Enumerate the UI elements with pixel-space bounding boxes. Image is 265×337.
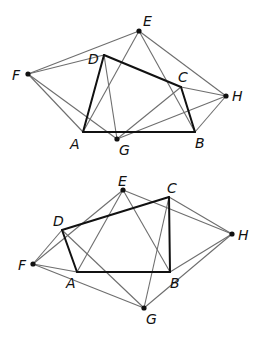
segment-hb <box>195 96 226 132</box>
point-label-c: C <box>178 69 188 85</box>
point-f-dot <box>25 71 30 76</box>
point-label-h: H <box>238 227 249 243</box>
segment-cg <box>144 197 169 308</box>
point-g-dot <box>141 305 146 310</box>
point-label-e: E <box>118 173 127 189</box>
point-label-b: B <box>170 275 180 291</box>
point-label-b: B <box>195 135 205 151</box>
point-f-dot <box>30 261 35 266</box>
segment-ea <box>77 190 123 272</box>
point-label-a: A <box>69 136 80 152</box>
segment-ea <box>83 31 139 132</box>
bottom-figure: ECDHFABG <box>18 173 249 327</box>
point-label-a: A <box>65 275 76 291</box>
segment-fe <box>33 190 123 264</box>
top-figure: EDFCHAGB <box>12 13 243 158</box>
point-h-dot <box>229 231 234 236</box>
segment-fg <box>33 264 144 308</box>
point-label-d: D <box>88 51 99 67</box>
segment-ch <box>169 197 232 234</box>
segment-hb <box>170 234 232 272</box>
quadrilateral-side-cd <box>62 197 169 230</box>
point-label-h: H <box>232 88 243 104</box>
point-label-f: F <box>18 257 27 273</box>
point-label-c: C <box>167 180 177 196</box>
geometry-diagram: EDFCHAGB ECDHFABG <box>0 0 265 337</box>
segment-eh <box>123 190 232 234</box>
point-label-d: D <box>53 213 64 229</box>
point-label-f: F <box>12 67 21 83</box>
quadrilateral-side-bc <box>169 197 170 272</box>
segment-fd <box>33 230 62 264</box>
point-label-g: G <box>146 311 157 327</box>
segment-dg <box>62 230 144 308</box>
point-label-g: G <box>119 142 130 158</box>
segment-eb <box>123 190 170 272</box>
quadrilateral-side-da <box>62 230 77 272</box>
point-h-dot <box>223 93 228 98</box>
segment-fe <box>28 31 139 74</box>
segment-eh <box>139 31 226 96</box>
point-e-dot <box>136 28 141 33</box>
point-label-e: E <box>143 13 152 29</box>
segment-fg <box>28 74 117 139</box>
quadrilateral-side-cd <box>104 55 181 87</box>
segment-dg <box>104 55 117 139</box>
point-g-dot <box>114 136 119 141</box>
segment-fa <box>28 74 83 132</box>
segment-fa <box>33 264 77 272</box>
